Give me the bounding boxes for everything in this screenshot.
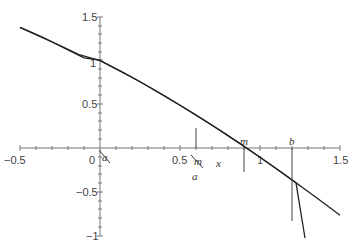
label-m-small: m xyxy=(194,155,202,167)
label-a: a xyxy=(192,170,198,182)
y-tick-label: 0.5 xyxy=(82,98,97,110)
y-axis xyxy=(97,17,103,236)
x-tick-label: 1.5 xyxy=(333,154,348,166)
x-tick-label: −0.5 xyxy=(4,154,26,166)
label-a-small: a xyxy=(102,151,108,163)
label-x: x xyxy=(215,157,221,169)
y-tick-label: 1.5 xyxy=(82,11,97,23)
label-m: m xyxy=(240,135,248,147)
x-tick-label: 0.5 xyxy=(172,154,187,166)
y-tick-label: −1 xyxy=(86,230,99,242)
label-b: b xyxy=(289,135,295,147)
function-plot: −0.5 0 0.5 1 1.5 1.5 1 0.5 −0.5 −1 a m a… xyxy=(0,0,357,250)
function-curve-tail xyxy=(20,27,305,238)
y-tick-label: −0.5 xyxy=(76,186,98,198)
x-tick-label: 0 xyxy=(89,154,95,166)
